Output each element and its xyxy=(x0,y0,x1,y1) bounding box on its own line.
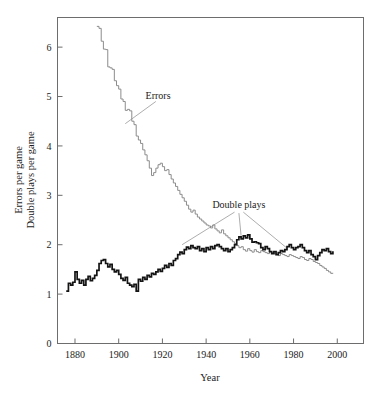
y-tick-label: 1 xyxy=(47,289,52,300)
annotation-labels: ErrorsDouble plays xyxy=(146,90,266,210)
x-tick-label: 1940 xyxy=(196,349,216,360)
y-axis-tick-labels: 0123456 xyxy=(47,42,52,349)
x-tick-label: 2000 xyxy=(327,349,347,360)
y-tick-label: 5 xyxy=(47,91,52,102)
x-tick-label: 1960 xyxy=(240,349,260,360)
annotation-leader-lines xyxy=(125,101,287,248)
double-plays-leader-right xyxy=(243,212,287,248)
y-axis-title-line2: Double plays per game xyxy=(25,131,36,228)
y-tick-label: 2 xyxy=(47,239,52,250)
series-line-double-plays xyxy=(66,235,333,291)
x-tick-label: 1920 xyxy=(152,349,172,360)
double-plays-leader-left xyxy=(182,212,234,245)
y-axis-ticks xyxy=(58,47,63,343)
errors-annotation: Errors xyxy=(146,90,171,101)
x-axis-tick-labels: 1880190019201940196019802000 xyxy=(65,349,347,360)
data-series-layer xyxy=(66,26,333,291)
y-tick-label: 3 xyxy=(47,190,52,201)
chart-figure: 1880190019201940196019802000 0123456 Err… xyxy=(0,0,382,393)
y-tick-label: 0 xyxy=(47,338,52,349)
y-tick-label: 4 xyxy=(47,141,52,152)
plot-frame xyxy=(58,18,364,344)
y-axis-title-line1: Errors per game xyxy=(13,146,24,214)
errors-leader xyxy=(125,101,156,123)
series-line-errors xyxy=(97,26,333,273)
chart-canvas: 1880190019201940196019802000 0123456 Err… xyxy=(0,0,382,393)
double-plays-annotation: Double plays xyxy=(212,199,265,210)
x-axis-ticks xyxy=(75,339,337,344)
y-tick-label: 6 xyxy=(47,42,52,53)
x-tick-label: 1880 xyxy=(65,349,85,360)
x-tick-label: 1900 xyxy=(109,349,129,360)
x-tick-label: 1980 xyxy=(284,349,304,360)
x-axis-title: Year xyxy=(200,372,220,383)
double-plays-leader-mid xyxy=(239,213,241,236)
